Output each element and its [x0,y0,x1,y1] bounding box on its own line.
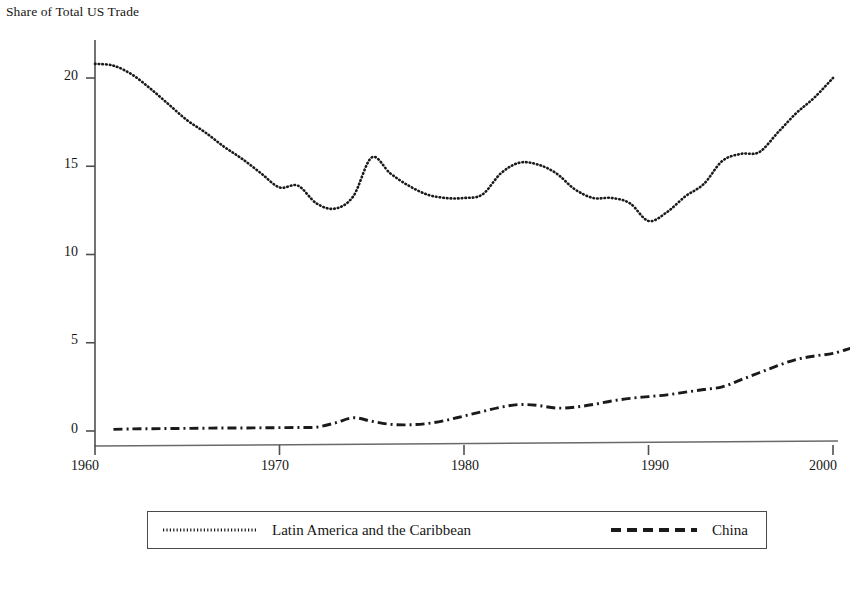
series-line-china [113,348,850,429]
legend-entry-china: China [610,512,748,548]
series-line-latin-america [95,64,833,221]
chart-figure: Share of Total US Trade 20 15 10 5 0 196… [0,0,850,591]
legend-label-latin-america: Latin America and the Caribbean [272,522,471,539]
x-axis-line [95,441,838,446]
legend-entry-latin-america: Latin America and the Caribbean [162,512,471,548]
chart-legend: Latin America and the Caribbean China [147,511,767,549]
plot-area [0,0,850,500]
legend-label-china: China [712,522,748,539]
legend-swatch-dashed-icon [610,524,698,536]
x-axis-ticks [95,445,833,455]
y-axis-ticks [86,78,95,431]
legend-swatch-dotted-icon [162,524,258,536]
